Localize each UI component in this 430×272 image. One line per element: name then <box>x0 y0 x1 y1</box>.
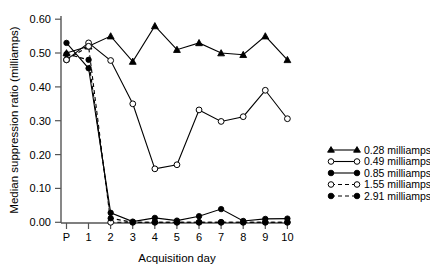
open-circle-marker-icon <box>196 107 202 113</box>
x-tick-label: P <box>63 231 70 243</box>
x-tick-label: 3 <box>130 231 136 243</box>
y-axis-title: Median suppression ratio (milliamps) <box>8 26 20 213</box>
chart-svg: 0.60 0.50 0.40 0.30 0.20 0.10 0.00 P 1 <box>0 0 430 272</box>
open-circle-marker-icon <box>130 101 136 107</box>
filled-circle-marker-icon <box>328 170 334 176</box>
filled-circle-marker-icon <box>328 193 334 199</box>
x-tick-label: 9 <box>262 231 268 243</box>
y-tick-label: 0.20 <box>30 149 51 161</box>
x-tick-label: 8 <box>240 231 246 243</box>
x-axis-title: Acquisition day <box>138 252 216 264</box>
legend-label: 0.49 milliamps <box>364 155 430 167</box>
open-circle-marker-icon <box>354 182 360 188</box>
x-tick-label: 10 <box>281 231 293 243</box>
open-circle-marker-icon <box>152 166 158 172</box>
filled-circle-marker-icon <box>263 220 268 225</box>
open-circle-marker-icon <box>328 159 334 165</box>
y-tick-label: 0.10 <box>30 182 51 194</box>
open-circle-marker-icon <box>285 116 291 122</box>
open-circle-marker-icon <box>240 114 246 120</box>
legend-label: 1.55 milliamps <box>364 178 430 190</box>
filled-circle-marker-icon <box>152 220 157 225</box>
filled-circle-marker-icon <box>174 220 179 225</box>
open-circle-marker-icon <box>328 182 334 188</box>
y-tick-label: 0.50 <box>30 47 51 59</box>
filled-circle-marker-icon <box>354 170 360 176</box>
x-tick-label: 6 <box>196 231 202 243</box>
filled-circle-marker-icon <box>285 220 290 225</box>
y-tick-label: 0.60 <box>30 13 51 25</box>
open-circle-marker-icon <box>174 162 180 168</box>
x-tick-label: 2 <box>108 231 114 243</box>
open-circle-marker-icon <box>262 87 268 93</box>
chart-figure: 0.60 0.50 0.40 0.30 0.20 0.10 0.00 P 1 <box>0 0 430 272</box>
x-tick-label: 1 <box>85 231 91 243</box>
open-circle-marker-icon <box>86 43 92 49</box>
filled-circle-marker-icon <box>218 220 223 225</box>
filled-circle-marker-icon <box>64 51 69 56</box>
open-circle-marker-icon <box>64 57 70 63</box>
x-tick-label: 4 <box>152 231 158 243</box>
filled-circle-marker-icon <box>86 66 91 71</box>
y-tick-label: 0.40 <box>30 81 51 93</box>
open-circle-marker-icon <box>108 58 114 64</box>
filled-circle-marker-icon <box>196 214 201 219</box>
filled-circle-marker-icon <box>130 220 135 225</box>
filled-circle-marker-icon <box>354 193 360 199</box>
open-circle-marker-icon <box>354 159 360 165</box>
legend-label: 0.85 milliamps <box>364 167 430 179</box>
open-circle-marker-icon <box>218 119 224 125</box>
filled-circle-marker-icon <box>218 206 223 211</box>
filled-circle-marker-icon <box>196 220 201 225</box>
filled-circle-marker-icon <box>241 220 246 225</box>
legend-label: 2.91 milliamps <box>364 190 430 202</box>
x-tick-label: 5 <box>174 231 180 243</box>
y-tick-label: 0.00 <box>30 216 51 228</box>
legend-label: 0.28 milliamps <box>364 144 430 156</box>
filled-circle-marker-icon <box>86 57 91 62</box>
x-tick-label: 7 <box>218 231 224 243</box>
filled-circle-marker-icon <box>108 216 113 221</box>
filled-circle-marker-icon <box>64 40 69 45</box>
y-tick-label: 0.30 <box>30 115 51 127</box>
